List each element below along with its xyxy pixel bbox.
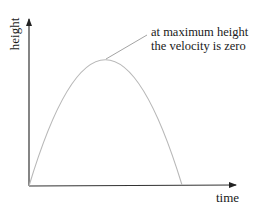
x-axis-label: time bbox=[216, 190, 239, 205]
annotation-line-1: at maximum height bbox=[151, 25, 249, 39]
projectile-height-time-diagram: height time at maximum height the veloci… bbox=[0, 0, 253, 211]
x-axis bbox=[29, 185, 236, 186]
trajectory-curve bbox=[29, 60, 182, 186]
annotation-line-2: the velocity is zero bbox=[151, 39, 246, 53]
y-axis-label: height bbox=[7, 17, 22, 50]
annotation-leader-line bbox=[106, 35, 147, 59]
